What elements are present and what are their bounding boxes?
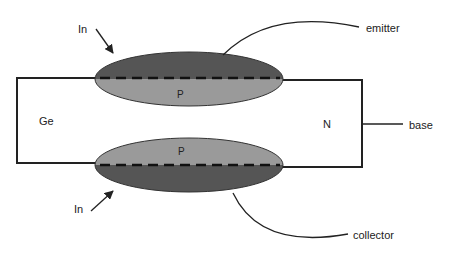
label-n-region: N xyxy=(323,118,331,130)
label-p-region-top: P xyxy=(177,89,184,100)
collector-lead xyxy=(233,193,348,238)
label-collector: collector xyxy=(353,229,394,241)
label-indium-bottom: In xyxy=(74,203,83,215)
emitter-lead xyxy=(223,22,359,55)
indium-arrow-bottom-icon xyxy=(91,191,113,211)
indium-arrow-top-icon xyxy=(96,29,113,53)
emitter-pellet xyxy=(90,50,290,109)
transistor-diagram: In In emitter collector base Ge N P P xyxy=(0,0,451,255)
label-p-region-bottom: P xyxy=(178,146,185,157)
label-base: base xyxy=(409,119,433,131)
label-indium-top: In xyxy=(78,23,87,35)
label-emitter: emitter xyxy=(366,22,400,34)
collector-pellet xyxy=(90,136,290,195)
label-germanium: Ge xyxy=(39,115,54,127)
